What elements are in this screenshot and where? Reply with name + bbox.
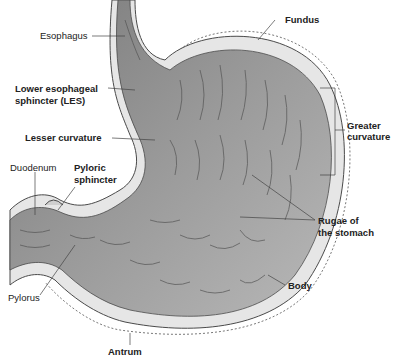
label-greater-curvature-line1: Greater (347, 120, 381, 131)
label-greater-curvature-line2: curvature (347, 131, 390, 142)
label-antrum: Antrum (108, 346, 142, 357)
label-body: Body (288, 280, 312, 291)
label-fundus: Fundus (285, 14, 319, 25)
label-rugae-line1: Rugae of (318, 215, 359, 226)
label-pyloric-sphincter-line1: Pyloric (74, 162, 106, 173)
label-pyloric-sphincter-line2: sphincter (74, 174, 117, 185)
label-rugae-line2: the stomach (318, 227, 374, 238)
label-les-line1: Lower esophageal (15, 83, 98, 94)
label-esophagus: Esophagus (40, 30, 88, 41)
label-duodenum: Duodenum (10, 162, 56, 173)
stomach-diagram (0, 0, 402, 362)
label-lesser-curvature: Lesser curvature (25, 132, 102, 143)
label-pylorus: Pylorus (8, 292, 40, 303)
label-les-line2: sphincter (LES) (15, 95, 85, 106)
